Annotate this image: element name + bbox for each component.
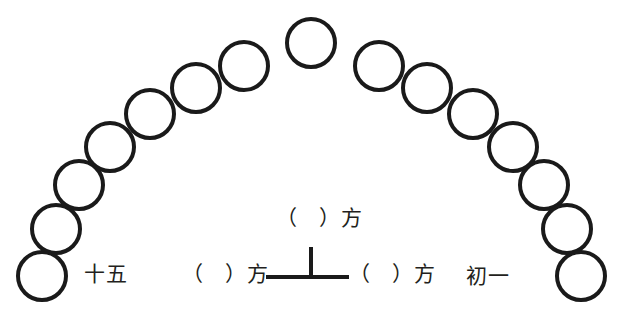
moon-phase-arc-figure: 十五 初一 （ ）方 （ ）方 （ ）方 bbox=[0, 0, 623, 331]
direction-blank-left: （ ）方 bbox=[182, 264, 268, 285]
moon-phase-circle bbox=[18, 252, 66, 300]
moon-phase-circle bbox=[172, 64, 220, 112]
direction-blank-top: （ ）方 bbox=[276, 208, 362, 229]
moon-phase-circle bbox=[557, 252, 605, 300]
direction-blank-right: （ ）方 bbox=[349, 264, 435, 285]
moon-phase-circle bbox=[32, 205, 80, 253]
moon-phase-circle bbox=[520, 161, 568, 209]
moon-phase-circle bbox=[543, 205, 591, 253]
moon-phase-circle bbox=[86, 123, 134, 171]
perpendicular-axis-mark bbox=[266, 247, 349, 277]
moon-phase-circle bbox=[287, 19, 335, 67]
moon-phase-circle bbox=[126, 90, 174, 138]
moon-phase-circle bbox=[355, 42, 403, 90]
moon-phase-circle bbox=[403, 64, 451, 112]
label-fifteenth-day: 十五 bbox=[84, 264, 127, 285]
moon-phase-circle bbox=[220, 42, 268, 90]
label-first-day: 初一 bbox=[466, 266, 509, 287]
moon-phase-circle bbox=[449, 90, 497, 138]
